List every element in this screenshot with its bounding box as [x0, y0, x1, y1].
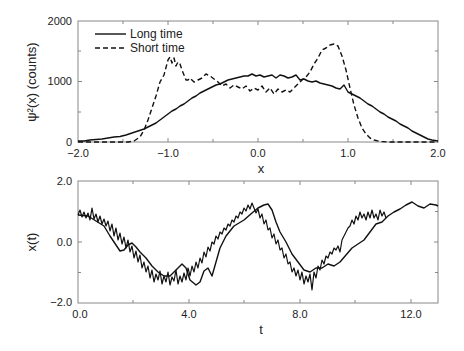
series-short-time — [78, 44, 438, 142]
bottom-x-axis-title: t — [259, 322, 263, 337]
top-ytick-2000: 2000 — [48, 15, 72, 27]
bottom-xtick-0: 0.0 — [72, 308, 87, 320]
top-xtick-minus1: −1.0 — [157, 147, 179, 159]
series-smooth-trajectory — [78, 202, 438, 285]
top-xtick-minus2: −2.0 — [67, 147, 89, 159]
bottom-plot-frame — [78, 181, 438, 303]
top-xtick-1: 1.0 — [340, 147, 355, 159]
legend-label-short-time: Short time — [130, 41, 185, 55]
bottom-plot: 2.0 0.0 −2.0 0.0 4.0 8.0 12.0 t x(t) — [24, 175, 438, 337]
top-y-axis-title: ψ²(x) (counts) — [24, 42, 39, 121]
legend-label-long-time: Long time — [130, 27, 183, 41]
top-xtick-0: 0.0 — [250, 147, 265, 159]
series-noisy-trajectory — [78, 203, 386, 290]
top-plot: 2000 1000 0 −2.0 −1.0 0.0 1.0 2.0 x ψ²(x… — [24, 15, 446, 176]
bottom-xtick-12: 12.0 — [400, 308, 421, 320]
bottom-y-axis-title: x(t) — [24, 233, 39, 252]
series-long-time — [78, 74, 438, 141]
top-ytick-1000: 1000 — [48, 75, 72, 87]
bottom-ytick-0: 0.0 — [57, 236, 72, 248]
bottom-ytick-2: 2.0 — [57, 175, 72, 187]
bottom-xtick-4: 4.0 — [181, 308, 196, 320]
bottom-xtick-8: 8.0 — [292, 308, 307, 320]
top-y-ticks — [78, 51, 438, 112]
bottom-x-ticks — [133, 181, 411, 303]
top-xtick-2: 2.0 — [430, 147, 445, 159]
top-x-axis-title: x — [258, 161, 265, 176]
figure: 2000 1000 0 −2.0 −1.0 0.0 1.0 2.0 x ψ²(x… — [0, 0, 464, 351]
bottom-ytick-minus2: −2.0 — [50, 296, 72, 308]
legend: Long time Short time — [95, 27, 185, 55]
